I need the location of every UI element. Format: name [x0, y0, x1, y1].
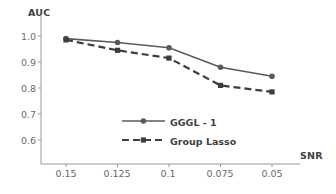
- data-point-s2-4: [269, 89, 274, 94]
- data-point-s2-0: [63, 37, 68, 42]
- data-point-s2-2: [166, 56, 171, 61]
- data-point-s1-4: [269, 74, 275, 80]
- data-point-s2-3: [218, 83, 223, 88]
- legend-key-2: [122, 137, 165, 142]
- legend-key-1: [122, 118, 165, 124]
- legend-keys: [122, 118, 165, 142]
- data-point-s1-1: [115, 40, 121, 46]
- data-point-s1-3: [218, 64, 224, 70]
- series-layer: [63, 36, 275, 95]
- chart-figure: AUC SNR 1.0 0.9 0.8 0.7 0.6 0.15 0.125 0…: [0, 0, 336, 194]
- data-point-s1-2: [166, 45, 172, 51]
- legend-marker-2: [141, 137, 146, 142]
- legend-marker-1: [141, 118, 147, 124]
- data-point-s2-1: [115, 48, 120, 53]
- plot-area: [0, 0, 336, 194]
